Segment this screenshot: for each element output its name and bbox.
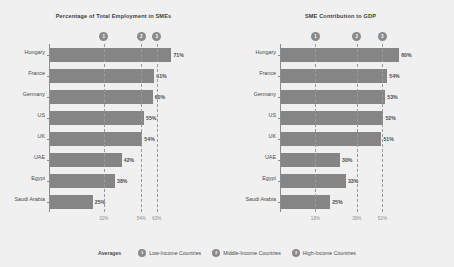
gridline-average-3 bbox=[157, 44, 158, 212]
bar-uk[interactable] bbox=[281, 132, 381, 146]
average-marker-2-icon: 2 bbox=[352, 32, 361, 41]
bar-value-label: 42% bbox=[122, 157, 134, 163]
bar-saudi-arabia[interactable] bbox=[50, 195, 93, 209]
bar-row: Saudi Arabia25% bbox=[49, 191, 179, 212]
y-axis-tick bbox=[278, 118, 280, 119]
y-axis-tick bbox=[47, 55, 49, 56]
y-axis-tick bbox=[47, 118, 49, 119]
bar-france[interactable] bbox=[281, 69, 387, 83]
average-marker-3-icon: 3 bbox=[152, 32, 161, 41]
bar-france[interactable] bbox=[50, 69, 154, 83]
bar-row: Hungary71% bbox=[49, 44, 179, 65]
average-marker-3-icon: 3 bbox=[378, 32, 387, 41]
bar-row: Egypt33% bbox=[280, 170, 406, 191]
gridline-average-2 bbox=[141, 44, 142, 212]
bar-hungary[interactable] bbox=[50, 48, 171, 62]
x-tick-label: 39% bbox=[352, 216, 361, 221]
category-label: US bbox=[38, 112, 46, 118]
x-tick-label: 63% bbox=[152, 216, 161, 221]
category-label: UAE bbox=[265, 154, 276, 160]
bar-row: France54% bbox=[280, 65, 406, 86]
bar-row: US52% bbox=[280, 107, 406, 128]
y-axis-tick bbox=[278, 55, 280, 56]
bar-row: UK51% bbox=[280, 128, 406, 149]
legend-marker-3-icon: 3 bbox=[292, 249, 300, 257]
bar-value-label: 54% bbox=[142, 136, 154, 142]
y-axis-tick bbox=[47, 181, 49, 182]
legend-label-high-income: High-Income Countries bbox=[303, 250, 356, 256]
category-label: US bbox=[269, 112, 277, 118]
bar-value-label: 52% bbox=[383, 115, 395, 121]
chart-panel-gdp: SME Contribution to GDP Hungary60%France… bbox=[227, 0, 454, 232]
y-axis-tick bbox=[278, 97, 280, 98]
chart-legend: Averages 1 Low-Income Countries 2 Middle… bbox=[0, 249, 454, 257]
bar-saudi-arabia[interactable] bbox=[281, 195, 330, 209]
bar-us[interactable] bbox=[281, 111, 383, 125]
bar-value-label: 30% bbox=[340, 157, 352, 163]
bar-us[interactable] bbox=[50, 111, 144, 125]
bar-germany[interactable] bbox=[281, 90, 385, 104]
dual-bar-chart-figure: Percentage of Total Employment in SMEs H… bbox=[0, 0, 454, 267]
bar-row: France61% bbox=[49, 65, 179, 86]
category-label: Saudi Arabia bbox=[245, 196, 276, 202]
category-label: UK bbox=[269, 133, 277, 139]
legend-marker-1-icon: 1 bbox=[138, 249, 146, 257]
x-tick-labels-gdp: 18%39%52% bbox=[280, 216, 406, 226]
gridline-average-1 bbox=[315, 44, 316, 212]
bar-row: Germany60% bbox=[49, 86, 179, 107]
legend-title: Averages bbox=[98, 250, 121, 256]
bar-row: Egypt38% bbox=[49, 170, 179, 191]
bar-row: Hungary60% bbox=[280, 44, 406, 65]
x-tick-label: 18% bbox=[311, 216, 320, 221]
bar-rows-gdp: Hungary60%France54%Germany53%US52%UK51%U… bbox=[280, 44, 406, 212]
legend-label-middle-income: Middle-Income Countries bbox=[223, 250, 281, 256]
chart-panel-employment: Percentage of Total Employment in SMEs H… bbox=[0, 0, 227, 232]
bar-row: UK54% bbox=[49, 128, 179, 149]
y-axis-tick bbox=[47, 97, 49, 98]
category-label: Hungary bbox=[25, 49, 45, 55]
bar-uk[interactable] bbox=[50, 132, 142, 146]
y-axis-tick bbox=[278, 202, 280, 203]
y-axis-tick bbox=[278, 160, 280, 161]
y-axis-tick bbox=[278, 76, 280, 77]
bar-value-label: 71% bbox=[171, 52, 183, 58]
x-tick-label: 32% bbox=[99, 216, 108, 221]
category-label: France bbox=[259, 70, 276, 76]
average-marker-1-icon: 1 bbox=[99, 32, 108, 41]
bar-germany[interactable] bbox=[50, 90, 153, 104]
bar-row: UAE30% bbox=[280, 149, 406, 170]
y-axis-tick bbox=[47, 139, 49, 140]
category-label: Egypt bbox=[31, 175, 45, 181]
bar-value-label: 60% bbox=[399, 52, 411, 58]
y-axis-tick bbox=[47, 160, 49, 161]
bar-egypt[interactable] bbox=[50, 174, 115, 188]
bar-value-label: 55% bbox=[144, 115, 156, 121]
category-label: Hungary bbox=[256, 49, 276, 55]
gridline-average-1 bbox=[104, 44, 105, 212]
page-title: Percentage of Total Employment in SMEs bbox=[0, 13, 227, 19]
bar-value-label: 53% bbox=[385, 94, 397, 100]
bar-row: Germany53% bbox=[280, 86, 406, 107]
bar-row: UAE42% bbox=[49, 149, 179, 170]
bar-row: US55% bbox=[49, 107, 179, 128]
chart-panels: Percentage of Total Employment in SMEs H… bbox=[0, 0, 454, 232]
gridline-average-3 bbox=[382, 44, 383, 212]
gridline-average-2 bbox=[357, 44, 358, 212]
bar-uae[interactable] bbox=[50, 153, 122, 167]
category-label: Egypt bbox=[262, 175, 276, 181]
x-tick-label: 54% bbox=[137, 216, 146, 221]
y-axis-tick bbox=[278, 139, 280, 140]
legend-item-high-income: 3 High-Income Countries bbox=[292, 249, 356, 257]
x-tick-labels-employment: 32%54%63% bbox=[49, 216, 179, 226]
x-tick-label: 52% bbox=[378, 216, 387, 221]
bar-value-label: 54% bbox=[387, 73, 399, 79]
bar-egypt[interactable] bbox=[281, 174, 346, 188]
category-label: France bbox=[28, 70, 45, 76]
average-marker-1-icon: 1 bbox=[311, 32, 320, 41]
bar-value-label: 38% bbox=[115, 178, 127, 184]
bar-value-label: 25% bbox=[330, 199, 342, 205]
category-label: UAE bbox=[34, 154, 45, 160]
bar-uae[interactable] bbox=[281, 153, 340, 167]
category-label: Germany bbox=[23, 91, 45, 97]
average-marker-2-icon: 2 bbox=[137, 32, 146, 41]
